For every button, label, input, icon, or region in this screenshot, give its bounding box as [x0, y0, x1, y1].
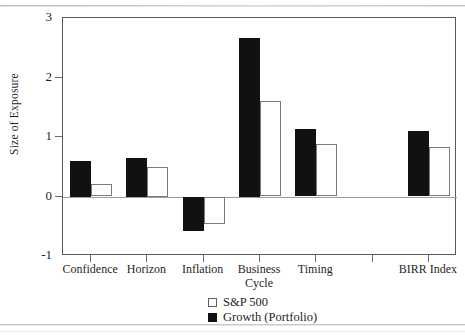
x-axis-tick	[259, 255, 260, 262]
y-axis-tick-label: 2	[46, 70, 53, 83]
bar-s-p-500-horizon	[147, 167, 168, 197]
x-axis-tick	[315, 255, 316, 262]
x-axis-tick	[90, 255, 91, 262]
y-axis-tick-label: 1	[46, 129, 53, 142]
y-axis-tick	[55, 77, 62, 78]
y-axis-tick-label: -1	[41, 248, 52, 261]
scan-artifact-line	[0, 325, 465, 326]
y-axis-title: Size of Exposure	[8, 54, 20, 174]
legend-swatch-white	[208, 298, 217, 307]
x-axis-tick	[203, 255, 204, 262]
y-axis-tick	[55, 196, 62, 197]
scan-artifact-line	[0, 6, 465, 7]
bar-growth-portfolio-timing	[295, 129, 316, 196]
legend: S&P 500Growth (Portfolio)	[208, 295, 317, 325]
scan-artifact-line	[0, 331, 465, 332]
legend-label: Growth (Portfolio)	[223, 310, 317, 324]
plot-area	[62, 17, 456, 255]
y-axis-tick-label: 0	[46, 189, 53, 202]
x-axis-tick-label: Timing	[265, 263, 365, 277]
bar-s-p-500-inflation	[204, 197, 225, 224]
legend-item: Growth (Portfolio)	[208, 310, 317, 324]
legend-item: S&P 500	[208, 295, 317, 309]
bar-growth-portfolio-business-cycle	[239, 38, 260, 197]
zero-baseline	[63, 197, 457, 198]
x-axis-tick	[428, 255, 429, 262]
exposure-bar-chart: Size of Exposure 3210-1 ConfidenceHorizo…	[0, 0, 465, 335]
bar-growth-portfolio-birr-index	[408, 131, 429, 196]
bar-growth-portfolio-inflation	[183, 197, 204, 231]
y-axis-tick	[55, 136, 62, 137]
x-axis-tick	[146, 255, 147, 262]
bar-s-p-500-confidence	[91, 184, 112, 196]
legend-swatch-black	[208, 313, 217, 322]
x-axis-tick	[372, 255, 373, 262]
x-axis-tick-label: BIRR Index	[378, 263, 465, 277]
bar-growth-portfolio-confidence	[70, 161, 91, 197]
y-axis-tick-label: 3	[46, 10, 53, 23]
bar-growth-portfolio-horizon	[126, 158, 147, 197]
bar-s-p-500-business-cycle	[260, 101, 281, 196]
legend-label: S&P 500	[223, 295, 268, 309]
bar-s-p-500-timing	[316, 144, 337, 196]
bar-s-p-500-birr-index	[429, 147, 450, 196]
